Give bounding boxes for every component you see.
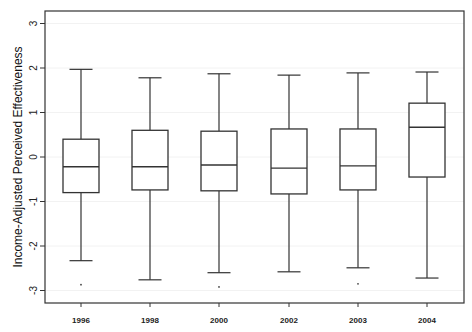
box-series (63, 69, 445, 288)
box-2004 (409, 72, 445, 278)
x-axis: 199619982000200220032004 (72, 303, 436, 325)
y-tick-label: -3 (28, 286, 39, 295)
x-tick-label: 2004 (418, 316, 436, 325)
box-1996 (63, 69, 99, 285)
x-tick-label: 2003 (349, 316, 367, 325)
y-axis-label: Income-Adjusted Perceived Effectiveness (11, 46, 25, 267)
iqr-box (63, 139, 99, 192)
iqr-box (340, 129, 376, 190)
y-tick-label: -2 (28, 241, 39, 250)
y-tick-label: 1 (28, 109, 39, 115)
y-tick-label: -1 (28, 197, 39, 206)
y-tick-label: 0 (28, 154, 39, 160)
iqr-box (271, 129, 307, 194)
y-axis: 3210-1-2-3 (28, 20, 45, 295)
x-tick-label: 2000 (210, 316, 228, 325)
outlier-point (80, 284, 82, 286)
outlier-point (218, 286, 220, 288)
x-tick-label: 2002 (280, 316, 298, 325)
box-1998 (132, 78, 168, 280)
box-2000 (201, 74, 237, 288)
iqr-box (201, 131, 237, 191)
y-tick-label: 2 (28, 65, 39, 71)
iqr-box (409, 103, 445, 177)
box-2003 (340, 73, 376, 285)
outlier-point (357, 283, 359, 285)
iqr-box (132, 130, 168, 190)
x-tick-label: 1998 (141, 316, 159, 325)
y-tick-label: 3 (28, 20, 39, 26)
box-plot-chart: 3210-1-2-3 199619982000200220032004 Inco… (0, 0, 472, 332)
grid-lines (45, 24, 464, 291)
box-2002 (271, 75, 307, 272)
x-tick-label: 1996 (72, 316, 90, 325)
